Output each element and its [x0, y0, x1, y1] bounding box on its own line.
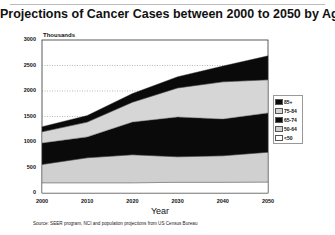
- legend-swatch: [275, 126, 283, 132]
- area-series--50: [42, 182, 268, 193]
- legend-label: 85+: [284, 99, 292, 105]
- x-axis-label: Year: [140, 206, 180, 216]
- legend: 85+75-8465-7450-64<50: [273, 95, 303, 144]
- legend-label: 75-84: [284, 108, 297, 114]
- legend-item: 85+: [275, 97, 301, 106]
- legend-label: 65-74: [284, 117, 297, 123]
- source-note: Source: SEER program, NCI and population…: [33, 221, 197, 226]
- legend-swatch: [275, 117, 283, 123]
- legend-swatch: [275, 108, 283, 114]
- legend-item: <50: [275, 133, 301, 142]
- legend-item: 50-64: [275, 124, 301, 133]
- legend-label: <50: [284, 135, 292, 141]
- legend-item: 65-74: [275, 115, 301, 124]
- legend-swatch: [275, 135, 283, 141]
- legend-label: 50-64: [284, 126, 297, 132]
- legend-swatch: [275, 99, 283, 105]
- legend-item: 75-84: [275, 106, 301, 115]
